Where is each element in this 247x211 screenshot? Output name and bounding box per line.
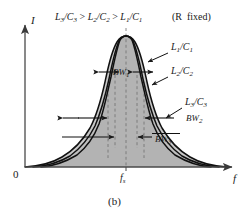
resonance-curve-svg: BW1 BW3 BW2 L1/C1: [0, 0, 247, 211]
r-fixed-note: (R fixed): [172, 11, 211, 23]
resonance-figure: BW1 BW3 BW2 L1/C1: [0, 0, 247, 211]
figure-caption: (b): [108, 195, 121, 208]
origin-label: 0: [13, 168, 19, 180]
